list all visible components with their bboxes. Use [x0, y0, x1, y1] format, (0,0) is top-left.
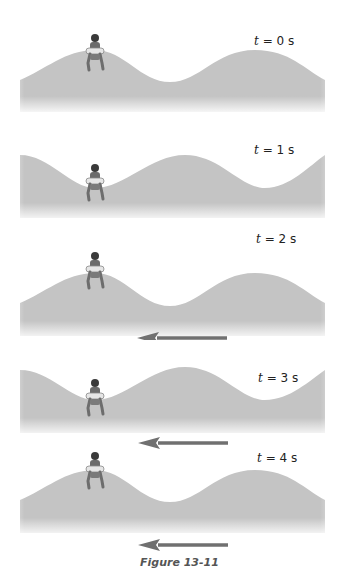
figure-caption: Figure 13-11	[140, 556, 219, 569]
panel-t2: t = 2 s	[0, 228, 348, 340]
wave-trough-profile	[0, 345, 348, 457]
time-label: t = 3 s	[258, 371, 298, 385]
panel-t1: t = 1 s	[0, 110, 348, 222]
panel-t3: t = 3 s	[0, 345, 348, 457]
wave-crest-profile	[0, 0, 348, 112]
panel-t4: t = 4 s	[0, 445, 348, 557]
wave-trough-profile	[0, 110, 348, 222]
time-label: t = 4 s	[257, 451, 297, 465]
time-label: t = 1 s	[254, 143, 294, 157]
time-label: t = 0 s	[254, 34, 294, 48]
panel-t0: t = 0 s	[0, 0, 348, 112]
left-arrow-icon	[138, 539, 228, 551]
time-label: t = 2 s	[256, 232, 296, 246]
